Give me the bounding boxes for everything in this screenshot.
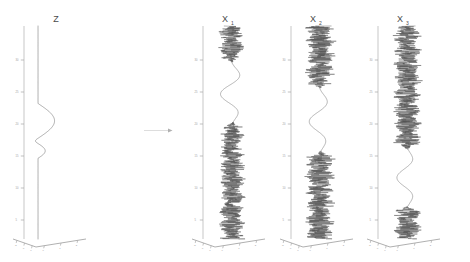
base-tick-label-z-left-0: -2 [15,244,18,247]
base-tick-label-z-right-1: 1 [59,247,61,250]
panel-title-x2: X [310,14,316,24]
y-tick-label-z-0: 30 [16,58,19,62]
y-tick-label-x2-1: 25 [283,90,286,94]
y-tick-label-x3-1: 25 [370,90,373,94]
base-tick-label-x2-left-0: -2 [282,244,285,247]
y-tick-label-x2-0: 30 [283,58,286,62]
base-tick-label-x2-right-1: 1 [326,247,328,250]
panel-title-group-x2: X2 [310,14,322,26]
base-tick-x3-left-2 [386,246,387,249]
base-tick-label-x3-left-1: -1 [376,247,379,250]
y-tick-label-x3-0: 30 [370,58,373,62]
base-tick-x3-left-0 [370,240,371,243]
panel-title-group-x3: X3 [397,14,409,26]
base-tick-label-z-right-0: 0 [42,249,44,252]
y-tick-label-x2-5: 5 [283,218,285,222]
panel-title-group-z: Z [53,14,59,24]
y-tick-label-x2-2: 20 [283,122,286,126]
y-tick-label-z-1: 25 [16,90,19,94]
base-tick-label-x2-left-2: 0 [297,249,299,252]
base-tick-label-x2-right-0: 0 [309,249,311,252]
base-tick-label-z-right-2: 2 [76,244,78,247]
base-tick-x1-left-2 [211,246,212,249]
base-tick-x2-left-1 [291,243,292,246]
base-tick-label-x1-right-1: 1 [238,247,240,250]
panel-title-subscript-x1: 1 [231,20,234,26]
panel-title-x1: X [222,14,228,24]
panel-z: 30252015105-2-10012 [13,26,86,252]
base-tick-x3-left-1 [378,243,379,246]
base-tick-label-x3-right-0: 0 [396,249,398,252]
series-curve-x2 [305,26,337,239]
base-tick-label-x1-left-0: -2 [194,244,197,247]
base-tick-label-x3-right-2: 2 [430,244,432,247]
y-tick-label-x1-0: 30 [195,58,198,62]
y-tick-label-z-4: 10 [16,186,19,190]
y-tick-label-z-2: 20 [16,122,19,126]
y-tick-label-z-3: 15 [16,154,19,158]
base-tick-x2-left-2 [299,246,300,249]
base-tick-label-z-left-1: -1 [22,247,25,250]
panel-title-x3: X [397,14,403,24]
y-tick-label-x3-3: 15 [370,154,373,158]
arrow-head-icon [168,129,173,133]
panel-x3: 30252015105-2-10012 [367,26,440,252]
base-tick-label-z-left-2: 0 [30,249,32,252]
y-tick-label-x1-5: 5 [195,218,197,222]
base-tick-label-x1-left-2: 0 [209,249,211,252]
y-tick-label-x2-4: 10 [283,186,286,190]
y-tick-label-x1-3: 15 [195,154,198,158]
base-tick-z-left-2 [32,246,33,249]
base-tick-label-x3-left-0: -2 [369,244,372,247]
base-tick-label-x1-left-1: -1 [201,247,204,250]
y-tick-label-x3-4: 10 [370,186,373,190]
y-tick-label-x3-5: 5 [370,218,372,222]
figure-root: 30252015105-2-1001230252015105-2-1001230… [0,0,470,262]
panel-title-group-x1: X1 [222,14,234,26]
panel-title-subscript-x3: 3 [406,20,409,26]
panel-titles-layer: ZX1X2X3 [53,14,409,26]
panel-title-z: Z [53,14,59,24]
base-tick-label-x2-right-2: 2 [343,244,345,247]
series-curve-x3 [393,26,423,239]
y-tick-label-x1-4: 10 [195,186,198,190]
y-tick-label-x1-1: 25 [195,90,198,94]
y-tick-label-x2-3: 15 [283,154,286,158]
panel-x2: 30252015105-2-10012 [280,26,353,252]
base-tick-z-left-1 [24,243,25,246]
panel-x1: 30252015105-2-10012 [192,26,265,252]
series-curve-x1 [218,26,245,239]
panels-layer: 30252015105-2-1001230252015105-2-1001230… [13,26,440,252]
y-tick-label-z-5: 5 [16,218,18,222]
base-tick-label-x3-right-1: 1 [413,247,415,250]
y-tick-label-x1-2: 20 [195,122,198,126]
series-curve-z [35,26,54,239]
base-tick-x2-left-0 [283,240,284,243]
base-tick-label-x1-right-0: 0 [221,249,223,252]
base-tick-x1-left-1 [203,243,204,246]
base-tick-label-x3-left-2: 0 [384,249,386,252]
base-tick-z-left-0 [16,240,17,243]
base-tick-x1-left-0 [195,240,196,243]
multi-panel-timeseries-figure: 30252015105-2-1001230252015105-2-1001230… [0,0,470,262]
base-tick-label-x2-left-1: -1 [289,247,292,250]
base-tick-label-x1-right-2: 2 [255,244,257,247]
maps-to-arrow [144,129,173,133]
panel-title-subscript-x2: 2 [319,20,322,26]
y-tick-label-x3-2: 20 [370,122,373,126]
